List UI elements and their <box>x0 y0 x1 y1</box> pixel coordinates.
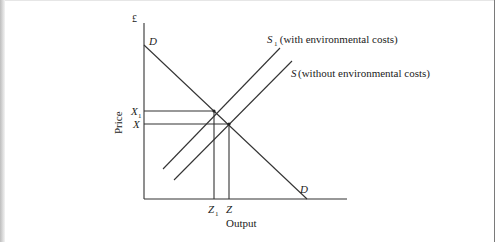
supply-curve-without-costs <box>174 61 292 180</box>
svg-text:1: 1 <box>215 210 219 218</box>
equilibrium-point-with-costs <box>212 109 215 112</box>
svg-text:S: S <box>267 33 273 45</box>
demand-curve <box>144 45 307 199</box>
y-axis-symbol: £ <box>132 13 137 24</box>
supply-curve-with-costs <box>163 48 280 169</box>
output-label-z: Z <box>226 203 233 215</box>
page-edge-shadow <box>0 0 5 242</box>
svg-text:(without environmental costs): (without environmental costs) <box>298 67 430 80</box>
svg-text:S: S <box>291 67 297 79</box>
supply-with-costs-label: S 1 (with environmental costs) <box>267 33 398 48</box>
output-label-z1: Z 1 <box>208 203 219 218</box>
y-axis-label: Price <box>112 111 124 134</box>
demand-label-top: D <box>148 35 157 47</box>
frame-top-border <box>0 0 495 1</box>
supply-demand-diagram: £ Price Output D D S 1 (with environment… <box>0 0 497 242</box>
svg-text:Z: Z <box>208 203 215 215</box>
equilibrium-point-without-costs <box>227 122 230 125</box>
svg-text:(with environmental costs): (with environmental costs) <box>277 33 398 46</box>
svg-text:X: X <box>132 118 141 130</box>
supply-without-costs-label: S (without environmental costs) <box>291 67 430 80</box>
diagram-canvas: £ Price Output D D S 1 (with environment… <box>0 0 497 242</box>
svg-text:Z: Z <box>226 203 233 215</box>
x-axis-label: Output <box>226 217 257 229</box>
frame-right-border <box>494 0 495 242</box>
price-label-x: X <box>132 118 141 130</box>
demand-label-bottom: D <box>299 183 308 195</box>
